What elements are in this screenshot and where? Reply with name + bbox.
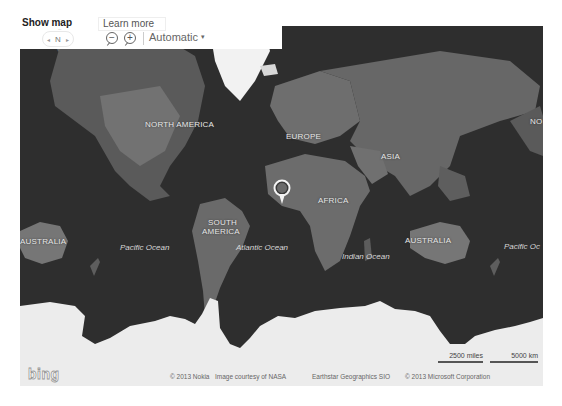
label-australia-left: AUSTRALIA	[20, 237, 66, 246]
label-africa: AFRICA	[318, 196, 349, 205]
rotate-right-icon[interactable]: ▸	[66, 36, 69, 43]
label-north-america: NORTH AMERICA	[145, 120, 214, 129]
label-indian-ocean: Indian Ocean	[342, 252, 390, 261]
scale-km-bar	[490, 361, 538, 363]
attribution-nokia: © 2013 Nokia	[170, 373, 209, 380]
label-south-america-line1: SOUTH	[208, 218, 237, 227]
rotate-left-icon[interactable]: ◂	[47, 36, 50, 43]
scale-miles-label: 2500 miles	[449, 352, 483, 359]
compass-south-icon: ▾	[57, 46, 60, 53]
label-asia: ASIA	[381, 152, 400, 161]
label-atlantic-ocean: Atlantic Ocean	[236, 243, 288, 252]
label-pacific-ocean-left: Pacific Ocean	[120, 243, 169, 252]
show-map-button[interactable]: Show map	[22, 17, 72, 28]
zoom-in-symbol: +	[127, 33, 133, 43]
toolbar-divider	[143, 32, 144, 45]
learn-more-link[interactable]: Learn more	[98, 17, 166, 31]
map-style-value: Automatic	[149, 31, 198, 43]
zoom-out-icon[interactable]: −	[106, 32, 118, 44]
compass-north-label: N	[55, 35, 61, 44]
map-canvas[interactable]: NORTH AMERICA EUROPE ASIA AFRICA SOUTH A…	[20, 26, 543, 386]
attribution-nasa: Image courtesy of NASA	[215, 373, 286, 380]
label-south-america-line2: AMERICA	[202, 227, 240, 236]
label-pacific-ocean-right: Pacific Oc	[504, 242, 540, 251]
attribution-microsoft: © 2013 Microsoft Corporation	[405, 373, 490, 380]
label-europe: EUROPE	[286, 132, 321, 141]
label-north-america-cropped: NO	[530, 117, 542, 126]
map-style-dropdown[interactable]: Automatic▾	[149, 31, 204, 43]
compass-control[interactable]: ¯ ◂ N ▸ ▾	[42, 31, 74, 47]
map-toolbar: Show map Learn more ¯ ◂ N ▸ ▾ − + Automa…	[20, 14, 282, 49]
bing-logo[interactable]: bing	[28, 366, 60, 382]
attribution-earthstar: Earthstar Geographics SIO	[312, 373, 390, 380]
north-tick-icon: ¯	[58, 29, 61, 35]
scale-miles-bar	[438, 361, 483, 363]
zoom-out-symbol: −	[109, 33, 115, 43]
scale-km-label: 5000 km	[511, 352, 538, 359]
chevron-down-icon: ▾	[201, 33, 205, 40]
location-pin-icon[interactable]	[273, 179, 291, 209]
label-australia-right: AUSTRALIA	[405, 236, 451, 245]
scale-miles: 2500 miles	[438, 352, 483, 363]
scale-km: 5000 km	[490, 352, 538, 363]
zoom-in-icon[interactable]: +	[124, 32, 136, 44]
